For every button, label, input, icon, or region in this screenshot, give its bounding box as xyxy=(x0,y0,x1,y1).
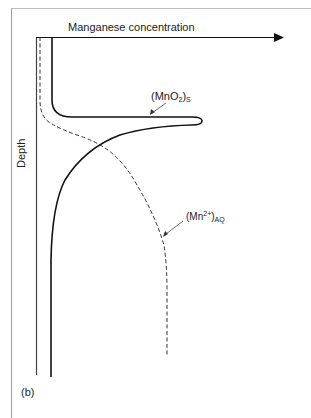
panel-label: (b) xyxy=(21,387,34,398)
y-axis-title: Depth xyxy=(16,139,27,168)
axis-arrow-icon xyxy=(274,33,284,42)
mn2-leader-arrow-icon xyxy=(163,231,168,237)
x-axis-title: Manganese concentration xyxy=(68,22,195,33)
mno2-leader-arrow-icon xyxy=(150,109,155,115)
mn2-leader-line xyxy=(166,221,183,234)
mno2-solid-curve xyxy=(51,37,202,377)
mno2-label-sub2: S xyxy=(186,96,191,103)
mn2-curve-label: (Mn2+)AQ xyxy=(186,210,225,223)
mn2-label-base: (Mn xyxy=(186,211,203,222)
mn2-label-sub: AQ xyxy=(215,216,225,223)
mno2-label-base: (MnO xyxy=(151,90,179,102)
mno2-curve-label: (MnO2)S xyxy=(151,91,191,103)
